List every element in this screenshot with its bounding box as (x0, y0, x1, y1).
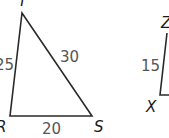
triangle-xyz: Z X 15 (141, 14, 169, 116)
triangle-xyz-outline (160, 33, 169, 95)
triangle-diagram: T R S 25 30 20 Z X 15 (0, 0, 169, 138)
side-length-tr: 25 (0, 56, 14, 74)
side-length-xz: 15 (141, 57, 160, 75)
vertex-label-s: S (94, 118, 104, 136)
triangle-rst: T R S 25 30 20 (0, 0, 104, 138)
triangle-rst-outline (10, 13, 92, 116)
side-length-rs: 20 (42, 120, 61, 138)
vertex-label-z: Z (160, 14, 169, 32)
vertex-label-x: X (145, 98, 157, 116)
vertex-label-t: T (18, 0, 29, 10)
side-length-ts: 30 (60, 48, 79, 66)
vertex-label-r: R (0, 118, 6, 136)
